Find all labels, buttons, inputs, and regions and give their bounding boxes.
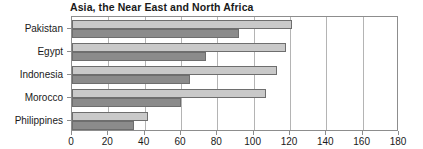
bars-layer [72,17,397,130]
bar [72,43,286,52]
x-tick-mark [144,131,145,135]
x-axis-labels: 020406080100120140160180 [0,133,423,149]
y-tick-label-pakistan: Pakistan [25,22,63,33]
x-tick-label-60: 60 [174,136,185,147]
bar [72,52,206,61]
bar-group [72,109,397,132]
x-tick-label-180: 180 [390,136,407,147]
x-tick-mark [253,131,254,135]
y-tick-label-philippines: Philippines [15,114,63,125]
y-axis-labels: PakistanEgyptIndonesiaMoroccoPhilippines [0,16,67,131]
x-tick-mark [71,131,72,135]
bar [72,121,134,130]
x-tick-label-100: 100 [244,136,261,147]
x-tick-mark [325,131,326,135]
chart-figure: Asia, the Near East and North Africa Pak… [0,0,423,149]
y-tick-label-egypt: Egypt [37,45,63,56]
plot-area [71,16,398,131]
x-tick-label-160: 160 [353,136,370,147]
bar-group [72,86,397,109]
bar-group [72,40,397,63]
bar [72,66,277,75]
y-tick-label-morocco: Morocco [25,91,63,102]
bar [72,20,292,29]
x-tick-mark [362,131,363,135]
x-tick-label-80: 80 [211,136,222,147]
bar [72,112,148,121]
x-tick-mark [107,131,108,135]
x-tick-mark [180,131,181,135]
x-tick-label-20: 20 [102,136,113,147]
bar [72,29,239,38]
bar-group [72,17,397,40]
x-tick-mark [289,131,290,135]
x-tick-label-140: 140 [317,136,334,147]
x-tick-label-120: 120 [281,136,298,147]
x-tick-label-40: 40 [138,136,149,147]
x-tick-mark [216,131,217,135]
x-tick-mark [398,131,399,135]
chart-title: Asia, the Near East and North Africa [70,1,254,13]
x-tick-label-0: 0 [68,136,74,147]
bar [72,89,266,98]
bar [72,98,181,107]
bar [72,75,190,84]
y-tick-label-indonesia: Indonesia [20,68,63,79]
bar-group [72,63,397,86]
